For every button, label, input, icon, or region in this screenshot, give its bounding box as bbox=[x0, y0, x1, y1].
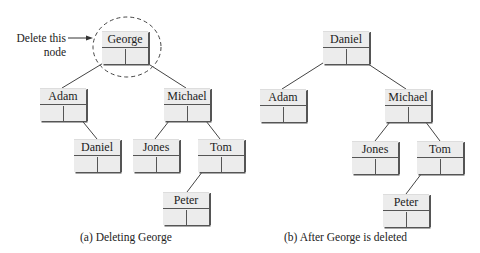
node-label: Tom bbox=[417, 142, 463, 158]
node-label: Daniel bbox=[323, 32, 369, 48]
node-peter-b: Peter bbox=[383, 194, 429, 227]
node-label: Michael bbox=[385, 90, 431, 106]
node-tom: Tom bbox=[198, 139, 244, 172]
node-michael-b: Michael bbox=[385, 89, 431, 122]
node-peter: Peter bbox=[163, 192, 209, 225]
arrow-head-icon bbox=[86, 36, 93, 41]
node-label: Jones bbox=[352, 142, 398, 158]
node-adam: Adam bbox=[40, 88, 86, 121]
node-label: George bbox=[102, 32, 148, 48]
node-tom-b: Tom bbox=[417, 141, 463, 174]
node-label: Adam bbox=[260, 90, 306, 106]
node-jones-b: Jones bbox=[352, 141, 398, 174]
annotation-line1: Delete this bbox=[4, 31, 66, 45]
node-label: Peter bbox=[163, 193, 209, 209]
node-label: Tom bbox=[198, 140, 244, 156]
node-george: George bbox=[102, 31, 148, 64]
delete-annotation: Delete this node bbox=[4, 31, 66, 59]
caption-b: (b) After George is deleted bbox=[284, 231, 407, 243]
node-label: Jones bbox=[133, 140, 179, 156]
node-jones: Jones bbox=[133, 139, 179, 172]
node-label: Daniel bbox=[74, 140, 120, 156]
node-label: Michael bbox=[164, 89, 210, 105]
node-michael: Michael bbox=[164, 88, 210, 121]
node-daniel-b: Daniel bbox=[323, 31, 369, 64]
node-label: Adam bbox=[40, 89, 86, 105]
node-adam-b: Adam bbox=[260, 89, 306, 122]
caption-a: (a) Deleting George bbox=[80, 231, 172, 243]
node-daniel: Daniel bbox=[74, 139, 120, 172]
node-label: Peter bbox=[383, 195, 429, 211]
annotation-line2: node bbox=[4, 45, 66, 59]
